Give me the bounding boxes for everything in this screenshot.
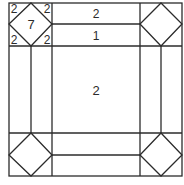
corner-diamond-top-right (140, 3, 182, 46)
label-tl-triangle-tl: 2 (11, 2, 18, 16)
corner-diamond-bottom-left (9, 133, 52, 176)
label-tl-triangle-tr: 2 (44, 2, 51, 16)
label-top-strip-outer: 2 (93, 7, 100, 21)
quilt-block-diagram: 2 2 2 2 7 2 1 2 (0, 0, 184, 185)
label-tl-triangle-br: 2 (44, 33, 51, 47)
label-tl-triangle-bl: 2 (11, 33, 18, 47)
corner-diamond-bottom-right (140, 133, 182, 176)
label-top-strip-inner: 1 (93, 29, 100, 43)
label-center-square: 2 (92, 83, 99, 98)
label-tl-diamond-center: 7 (27, 17, 34, 32)
